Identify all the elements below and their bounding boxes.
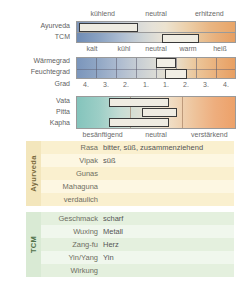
grid-cell bbox=[77, 58, 97, 78]
tick-besaenftigend: besänftigend bbox=[76, 131, 129, 139]
grid-mid-divider bbox=[77, 69, 235, 70]
ayurveda-range-marker[interactable] bbox=[79, 23, 137, 32]
table-row: Geschmack scharf bbox=[41, 212, 234, 225]
row-key: Zang-fu bbox=[41, 240, 103, 249]
tick-heiss: heiß bbox=[204, 45, 236, 53]
row-key: Rasa bbox=[41, 143, 103, 152]
dosha-row-labels: Vata Pitta Kapha bbox=[14, 97, 70, 127]
table-row: Zang-fu Herz bbox=[41, 238, 234, 251]
row-key: Wirkung bbox=[41, 266, 103, 275]
row-key: Mahaguna bbox=[41, 182, 103, 191]
row-key: Yin/Yang bbox=[41, 253, 103, 262]
tick-neutral-b: neutral bbox=[140, 45, 172, 53]
row-label-waermegrad: Wärmegrad bbox=[14, 57, 70, 65]
table-row: Mahaguna bbox=[41, 180, 234, 193]
row-key: Vipak bbox=[41, 156, 103, 165]
thermal-row-labels: Ayurveda TCM bbox=[14, 22, 70, 41]
waermegrad-marker[interactable] bbox=[156, 58, 176, 68]
grid-cell bbox=[97, 58, 117, 78]
grid-cell bbox=[117, 58, 137, 78]
table-row: verdaulich bbox=[41, 193, 234, 206]
row-value: scharf bbox=[103, 214, 234, 223]
degree-row-labels: Wärmegrad Feuchtegrad Grad bbox=[14, 57, 70, 88]
row-value: süß bbox=[103, 156, 234, 165]
degree-tick: 1. bbox=[156, 81, 176, 89]
tcm-spine-label: TCM bbox=[29, 236, 38, 253]
ayurveda-panel-rows: Rasa bitter, süß, zusammenziehend Vipak … bbox=[41, 141, 234, 206]
row-label-kapha: Kapha bbox=[14, 119, 70, 127]
degree-tick: 3. bbox=[196, 81, 216, 89]
row-key: Geschmack bbox=[41, 214, 103, 223]
tick-verstaerkend: verstärkend bbox=[183, 131, 236, 139]
row-value: Yin bbox=[103, 253, 234, 262]
degree-tick: 1. bbox=[136, 81, 156, 89]
row-value: Herz bbox=[103, 240, 234, 249]
infographic-root: kühlend neutral erhitzend Ayurveda TCM k… bbox=[0, 0, 245, 284]
tcm-panel: TCM Geschmack scharf Wuxing Metall Zang-… bbox=[26, 212, 234, 277]
table-row: Vipak süß bbox=[41, 154, 234, 167]
tick-kuehlend: kühlend bbox=[76, 10, 129, 18]
thermal-bottom-ticks: kalt kühl neutral warm heiß bbox=[76, 45, 236, 53]
degree-tick: 2. bbox=[176, 81, 196, 89]
grid-cell bbox=[197, 58, 217, 78]
table-row: Wuxing Metall bbox=[41, 225, 234, 238]
tick-neutral-d: neutral bbox=[129, 131, 182, 139]
dosha-ticks: besänftigend neutral verstärkend bbox=[76, 131, 236, 139]
tick-erhitzend: erhitzend bbox=[183, 10, 236, 18]
dosha-gradient-grid bbox=[76, 96, 236, 129]
ayurveda-gradient-bar bbox=[76, 21, 236, 32]
degree-grid bbox=[76, 57, 236, 79]
thermal-bars bbox=[76, 21, 236, 43]
degree-tick: 4. bbox=[216, 81, 236, 89]
table-row: Gunas bbox=[41, 167, 234, 180]
row-key: verdaulich bbox=[41, 195, 103, 204]
table-row: Yin/Yang Yin bbox=[41, 251, 234, 264]
ayurveda-panel-spine: Ayurveda bbox=[26, 141, 41, 206]
feuchtegrad-marker[interactable] bbox=[165, 69, 186, 79]
degree-ticks: 4. 3. 2. 1. 1. 2. 3. 4. bbox=[76, 81, 236, 89]
row-label-tcm: TCM bbox=[14, 33, 70, 41]
row-label-grad: Grad bbox=[14, 80, 70, 88]
row-label-feuchtegrad: Feuchtegrad bbox=[14, 68, 70, 76]
pitta-marker[interactable] bbox=[142, 108, 177, 117]
table-row: Rasa bitter, süß, zusammenziehend bbox=[41, 141, 234, 154]
grid-cell bbox=[217, 58, 237, 78]
tcm-range-marker[interactable] bbox=[162, 34, 198, 43]
kapha-marker[interactable] bbox=[109, 118, 169, 127]
degree-tick: 2. bbox=[116, 81, 136, 89]
vata-marker[interactable] bbox=[109, 98, 169, 107]
thermal-top-ticks: kühlend neutral erhitzend bbox=[76, 10, 236, 18]
row-label-vata: Vata bbox=[14, 97, 70, 105]
table-row: Wirkung bbox=[41, 264, 234, 277]
tick-kuehl: kühl bbox=[108, 45, 140, 53]
row-label-ayurveda: Ayurveda bbox=[14, 22, 70, 30]
degree-tick: 4. bbox=[76, 81, 96, 89]
row-value: Metall bbox=[103, 227, 234, 236]
tcm-panel-spine: TCM bbox=[26, 212, 41, 277]
tick-neutral: neutral bbox=[129, 10, 182, 18]
tick-warm: warm bbox=[172, 45, 204, 53]
ayurveda-panel: Ayurveda Rasa bitter, süß, zusammenziehe… bbox=[26, 141, 234, 206]
row-value: bitter, süß, zusammenziehend bbox=[103, 143, 234, 152]
dosha-divider bbox=[182, 97, 183, 128]
row-label-pitta: Pitta bbox=[14, 108, 70, 116]
degree-tick: 3. bbox=[96, 81, 116, 89]
row-key: Gunas bbox=[41, 169, 103, 178]
ayurveda-spine-label: Ayurveda bbox=[29, 155, 38, 191]
tick-kalt: kalt bbox=[76, 45, 108, 53]
tcm-panel-rows: Geschmack scharf Wuxing Metall Zang-fu H… bbox=[41, 212, 234, 277]
row-key: Wuxing bbox=[41, 227, 103, 236]
grid-cell bbox=[137, 58, 157, 78]
tcm-gradient-bar bbox=[76, 32, 236, 43]
